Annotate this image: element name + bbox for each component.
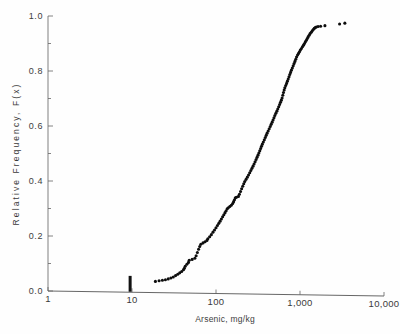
x-axis-tick-label: 100 bbox=[208, 296, 225, 307]
data-point bbox=[191, 258, 194, 261]
y-axis-tick-label: 1.0 bbox=[29, 11, 43, 21]
x-axis-tick-label: 1,000 bbox=[287, 297, 312, 308]
data-point bbox=[239, 190, 242, 193]
x-axis-tick-label: 10,000 bbox=[369, 298, 400, 309]
data-point bbox=[323, 24, 326, 27]
y-axis-tick-label: 0.6 bbox=[29, 121, 43, 131]
x-axis-tick-label: 10 bbox=[126, 294, 137, 305]
data-point bbox=[281, 94, 284, 97]
data-point bbox=[188, 259, 191, 262]
data-points-group bbox=[154, 22, 347, 283]
y-axis-title: Relative Frequency, F(x) bbox=[11, 83, 21, 226]
x-axis-tick-label: 1 bbox=[45, 293, 51, 304]
threshold-marker-bar bbox=[129, 276, 132, 292]
y-axis-minor-tick-group bbox=[48, 44, 51, 264]
data-point bbox=[281, 96, 284, 99]
data-point bbox=[164, 278, 167, 281]
y-axis-tick-label: 0.2 bbox=[29, 231, 43, 241]
chart-figure: 0.00.20.40.60.81.0 1101001,00010,000 Ars… bbox=[0, 0, 400, 334]
data-point bbox=[338, 22, 341, 25]
data-point bbox=[319, 25, 322, 28]
annotation-group bbox=[129, 276, 132, 292]
data-point bbox=[196, 251, 199, 254]
data-point bbox=[154, 280, 157, 283]
y-axis-tick-label-group: 0.00.20.40.60.81.0 bbox=[29, 11, 43, 296]
data-series bbox=[154, 22, 347, 283]
data-point bbox=[197, 248, 200, 251]
y-axis-tick-label: 0.4 bbox=[29, 176, 43, 186]
y-axis-tick-label: 0.0 bbox=[29, 286, 43, 296]
data-point bbox=[161, 279, 164, 282]
ecdf-chart-canvas: 0.00.20.40.60.81.0 1101001,00010,000 Ars… bbox=[0, 0, 400, 334]
data-point bbox=[343, 22, 346, 25]
x-axis-title: Arsenic, mg/kg bbox=[195, 314, 255, 324]
data-point bbox=[195, 254, 198, 257]
data-point bbox=[158, 279, 161, 282]
data-point bbox=[238, 193, 241, 196]
y-axis-tick-label: 0.8 bbox=[29, 66, 43, 76]
